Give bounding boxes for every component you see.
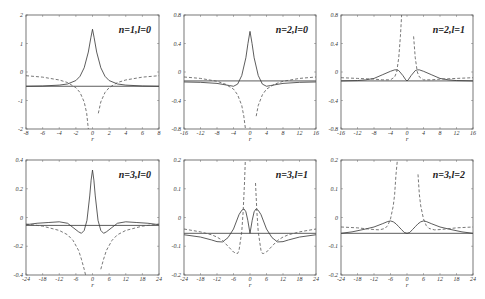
x-tick-label: -6 [231,276,236,282]
y-tick-label: -0.4 [14,272,24,278]
y-tick-label: 0.4 [16,157,24,163]
y-tick-label: -0.4 [172,98,182,104]
x-tick-label: -12 [354,130,362,136]
x-tick-label: -24 [180,276,188,282]
panel-title: n=3,l=1 [276,169,308,180]
x-tick-label: 12 [280,276,286,282]
x-tick-label: -4 [388,130,393,136]
plot-area [184,31,316,129]
x-tick-label: 16 [470,130,476,136]
y-tick-label: 0.8 [174,12,182,18]
x-tick-label: 16 [313,130,319,136]
plot-area [26,29,159,129]
y-tick-label: -0.2 [14,243,24,249]
x-tick-label: -18 [197,276,205,282]
x-tick-label: -12 [370,276,378,282]
solid-curve [184,209,316,242]
dashed-curve [184,77,316,129]
x-tick-label: -6 [40,130,45,136]
x-tick-label: 8 [158,130,161,136]
panel-4: -24-18-12-606121824-0.4-0.200.20.4rn=3,l… [14,157,163,289]
y-tick-label: -0.1 [172,243,182,249]
y-tick-label: 1 [20,41,23,47]
x-tick-label: 18 [297,276,303,282]
x-tick-label: 24 [156,276,162,282]
x-tick-label: -12 [55,276,63,282]
solid-curve [341,70,473,81]
y-tick-label: -0.8 [329,126,339,132]
x-tick-label: 24 [470,276,476,282]
y-tick-label: 0.1 [174,186,182,192]
panel-2: -16-12-8-40481216-0.8-0.400.40.8rn=2,l=0 [172,12,320,143]
y-tick-label: 0.8 [331,12,339,18]
x-tick-label: -2 [73,130,78,136]
x-tick-label: -24 [22,276,30,282]
x-tick-label: 24 [313,276,319,282]
x-tick-label: -12 [197,130,205,136]
y-tick-label: 0.2 [174,157,182,163]
y-tick-label: 0.2 [331,157,339,163]
figure: -8-6-4-202468-2-1012rn=1,l=0-16-12-8-404… [0,0,485,299]
x-tick-label: 4 [124,130,127,136]
x-tick-label: 8 [439,130,442,136]
y-tick-label: 0 [178,69,181,75]
panel-title: n=2,l=0 [276,24,308,35]
x-tick-label: -16 [337,130,345,136]
x-tick-label: 12 [437,276,443,282]
y-tick-label: -0.2 [329,272,339,278]
x-tick-label: 4 [265,130,268,136]
x-axis-label: r [249,281,252,289]
x-tick-label: -8 [215,130,220,136]
y-tick-label: -1 [18,98,23,104]
panel-title: n=3,l=0 [119,169,151,180]
x-axis-label: r [406,281,409,289]
y-tick-label: -0.8 [172,126,182,132]
y-tick-label: 0 [20,69,23,75]
y-tick-label: 0.4 [331,41,339,47]
panel-title: n=2,l=1 [433,24,465,35]
dashed-curve [26,76,159,129]
y-tick-label: 2 [20,12,23,18]
x-tick-label: -12 [213,276,221,282]
x-tick-label: -4 [57,130,62,136]
x-axis-label: r [91,281,94,289]
plot-area [26,170,159,275]
x-tick-label: -8 [24,130,29,136]
x-tick-label: -6 [388,276,393,282]
panel-title: n=1,l=0 [119,24,151,35]
x-tick-label: -24 [337,276,345,282]
x-tick-label: 6 [141,130,144,136]
x-tick-label: 18 [139,276,145,282]
y-tick-label: 0.4 [174,41,182,47]
x-axis-label: r [406,135,409,143]
panel-title: n=3,l=2 [433,169,465,180]
x-tick-label: 4 [422,130,425,136]
panel-6: -24-18-12-606121824-0.2-0.100.10.2rn=3,l… [329,157,477,289]
x-tick-label: 18 [454,276,460,282]
x-tick-label: 2 [108,130,111,136]
solid-curve [341,221,473,233]
x-tick-label: 6 [422,276,425,282]
y-tick-label: -0.1 [329,243,339,249]
x-tick-label: 8 [282,130,285,136]
y-tick-label: -2 [18,126,23,132]
y-tick-label: 0 [335,69,338,75]
x-tick-label: 12 [123,276,129,282]
x-tick-label: -8 [372,130,377,136]
x-tick-label: -4 [231,130,236,136]
solid-curve [184,31,316,86]
dashed-curve [26,224,159,275]
x-tick-label: -18 [354,276,362,282]
y-tick-label: -0.4 [329,98,339,104]
x-tick-label: 6 [265,276,268,282]
x-tick-label: -16 [180,130,188,136]
y-tick-label: 0 [20,215,23,221]
panel-1: -8-6-4-202468-2-1012rn=1,l=0 [18,12,161,143]
x-tick-label: 12 [454,130,460,136]
y-tick-label: -0.2 [172,272,182,278]
panel-3: -16-12-8-40481216-0.8-0.400.40.8rn=2,l=1 [329,12,477,143]
x-tick-label: 6 [108,276,111,282]
x-axis-label: r [249,135,252,143]
x-tick-label: -18 [39,276,47,282]
panel-5: -24-18-12-606121824-0.2-0.100.10.2rn=3,l… [172,157,320,289]
